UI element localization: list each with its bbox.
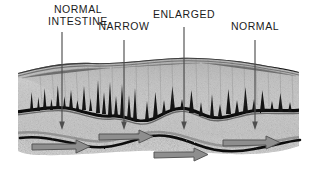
label-narrow: NARROW (94, 21, 154, 33)
label-normal: NORMAL (226, 21, 284, 33)
intestine-diagram-figure: NORMAL INTESTINE NARROW ENLARGED NORMAL (0, 0, 313, 180)
label-enlarged: ENLARGED (150, 9, 218, 21)
